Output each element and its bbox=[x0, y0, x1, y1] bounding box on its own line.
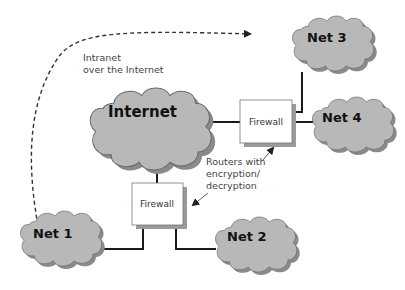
annotation-routers-line3: decryption bbox=[206, 180, 257, 191]
cloud-net3-label: Net 3 bbox=[307, 30, 346, 45]
annotation-intranet-line2: over the Internet bbox=[83, 64, 164, 75]
annotation-routers-line1: Routers with bbox=[206, 156, 266, 167]
cloud-net3: Net 3 bbox=[293, 16, 377, 74]
cloud-net2-label: Net 2 bbox=[227, 229, 266, 244]
network-diagram: Internet Net 3 Net 4 Net 1 Net 2 Firewal… bbox=[0, 0, 405, 290]
annotation-routers: Routers with encryption/ decryption bbox=[193, 148, 273, 205]
annotation-routers-line2: encryption/ bbox=[206, 168, 261, 179]
annotation-intranet: Intranet over the Internet bbox=[83, 52, 164, 75]
cloud-net4: Net 4 bbox=[313, 97, 397, 155]
firewall-bottom: Firewall bbox=[132, 183, 187, 229]
firewall-top-label: Firewall bbox=[249, 117, 283, 127]
cloud-net4-label: Net 4 bbox=[322, 110, 361, 125]
cloud-net1: Net 1 bbox=[21, 211, 105, 269]
firewall-top: Firewall bbox=[240, 100, 296, 147]
cloud-internet-label: Internet bbox=[108, 103, 177, 121]
pointer-arrow-bottom-firewall bbox=[193, 193, 208, 205]
cloud-net2: Net 2 bbox=[216, 217, 300, 275]
cloud-net1-label: Net 1 bbox=[33, 226, 72, 241]
pointer-arrow-top-firewall bbox=[263, 148, 273, 160]
firewall-bottom-label: Firewall bbox=[140, 199, 174, 209]
annotation-intranet-line1: Intranet bbox=[83, 52, 121, 63]
cloud-internet: Internet bbox=[90, 88, 215, 174]
